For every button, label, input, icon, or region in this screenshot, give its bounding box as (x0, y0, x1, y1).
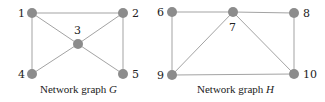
node-2 (118, 8, 128, 18)
node-9 (167, 70, 177, 80)
edge-1-3 (32, 13, 78, 44)
network-graphs-figure: 1 2 3 4 5 Network graph G 6 7 8 9 10 Net… (0, 0, 325, 102)
edge-2-3 (78, 13, 123, 44)
edge-9-10 (172, 74, 294, 75)
node-label-7: 7 (229, 21, 236, 34)
node-label-2: 2 (132, 7, 139, 20)
edge-9-7 (172, 12, 233, 75)
node-label-6: 6 (157, 6, 164, 19)
node-5 (118, 69, 128, 79)
node-label-4: 4 (18, 68, 25, 81)
graph-h-nodes (167, 7, 299, 80)
node-1 (27, 8, 37, 18)
node-label-8: 8 (303, 7, 310, 20)
node-label-9: 9 (157, 69, 164, 82)
node-7 (228, 7, 238, 17)
node-label-10: 10 (303, 68, 317, 81)
edge-3-4 (32, 44, 78, 74)
node-10 (289, 69, 299, 79)
node-6 (167, 7, 177, 17)
edge-3-5 (78, 44, 123, 74)
node-label-3: 3 (74, 24, 81, 37)
node-8 (289, 8, 299, 18)
caption-graph-g: Network graph G (40, 83, 117, 95)
node-label-1: 1 (18, 7, 25, 20)
node-label-5: 5 (132, 68, 139, 81)
edge-7-10 (233, 12, 294, 74)
edge-7-8 (233, 12, 294, 13)
node-4 (27, 69, 37, 79)
graph-g-nodes (27, 8, 128, 79)
caption-graph-h: Network graph H (197, 83, 275, 95)
node-3 (73, 39, 83, 49)
